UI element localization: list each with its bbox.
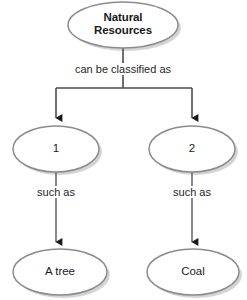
edge-label-can-be-classified-as: can be classified as — [33, 63, 213, 75]
node-example-2 — [147, 249, 239, 295]
concept-map-diagram: Natural Resources 1 2 A tree Coal can be… — [0, 0, 247, 300]
edge-label-such-as-left: such as — [16, 186, 96, 198]
diagram-canvas — [0, 0, 247, 300]
node-category-1 — [13, 126, 99, 172]
node-root — [68, 2, 178, 48]
node-example-1 — [13, 249, 107, 295]
node-category-2 — [149, 126, 235, 172]
node-layer — [13, 2, 239, 295]
edge-label-such-as-right: such as — [152, 186, 232, 198]
